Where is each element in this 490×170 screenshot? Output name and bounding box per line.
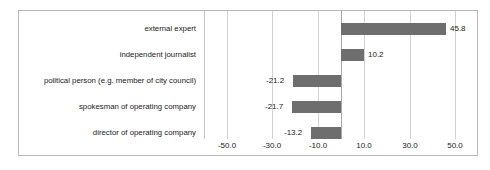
bar-value-label: -21.2 <box>266 75 284 87</box>
category-label: independent journalist <box>18 50 196 60</box>
x-tick-label: -30.0 <box>252 141 292 150</box>
category-label: external expert <box>18 24 196 34</box>
bar-external-expert <box>341 23 446 35</box>
bar-value-label: 45.8 <box>450 23 466 35</box>
x-tick-label: 50.0 <box>435 141 475 150</box>
x-tick-label: 30.0 <box>390 141 430 150</box>
gridline-minus-50 <box>227 11 228 139</box>
category-label: political person (e.g. member of city co… <box>18 76 196 86</box>
category-label-column: external expert independent journalist p… <box>19 11 204 139</box>
x-tick-label: -10.0 <box>298 141 338 150</box>
x-tick-label: -50.0 <box>207 141 247 150</box>
chart-frame: external expert independent journalist p… <box>18 10 478 156</box>
category-label: spokesman of operating company <box>18 102 196 112</box>
bar-value-label: 10.2 <box>368 49 384 61</box>
bar-value-label: -13.2 <box>284 127 302 139</box>
category-label: director of operating company <box>18 128 196 138</box>
bar-value-label: -21.7 <box>265 101 283 113</box>
bar-spokesman-operating-company <box>292 101 341 113</box>
bar-political-person <box>293 75 341 87</box>
x-tick-label: 10.0 <box>344 141 384 150</box>
bar-director-operating-company <box>311 127 341 139</box>
bar-independent-journalist <box>341 49 364 61</box>
plot-area: 45.8 10.2 -21.2 -21.7 -13.2 <box>204 11 478 139</box>
x-axis-tick-labels: -50.0 -30.0 -10.0 10.0 30.0 50.0 <box>204 141 478 155</box>
